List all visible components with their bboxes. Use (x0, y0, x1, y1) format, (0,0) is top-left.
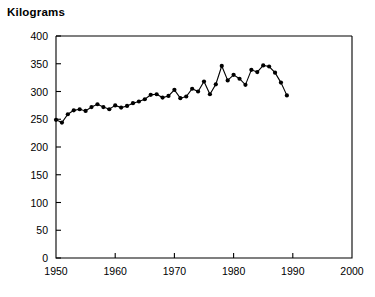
y-tick-label: 100 (8, 198, 48, 209)
y-tick-label: 250 (8, 114, 48, 125)
data-point (119, 105, 123, 109)
chart-container: Kilograms 050100150200250300350400 19501… (0, 0, 375, 297)
data-point (178, 96, 182, 100)
data-point (243, 83, 247, 87)
data-point (107, 107, 111, 111)
data-point (226, 78, 230, 82)
data-point (267, 64, 271, 68)
x-tick-label: 2000 (332, 266, 372, 277)
data-point (261, 63, 265, 67)
data-point (78, 107, 82, 111)
data-point-markers (54, 63, 289, 124)
data-point (113, 103, 117, 107)
data-point (255, 70, 259, 74)
data-point (184, 94, 188, 98)
line-chart-plot (0, 0, 375, 297)
y-tick-label: 200 (8, 142, 48, 153)
data-point (279, 81, 283, 85)
data-point (160, 96, 164, 100)
data-point (125, 104, 129, 108)
data-point (208, 92, 212, 96)
data-point (101, 105, 105, 109)
axis-lines (56, 36, 352, 258)
data-point (66, 112, 70, 116)
data-point (72, 108, 76, 112)
data-point (131, 101, 135, 105)
data-point (60, 120, 64, 124)
x-tick-label: 1980 (214, 266, 254, 277)
data-point (220, 64, 224, 68)
data-point (84, 109, 88, 113)
data-point (89, 105, 93, 109)
y-tick-label: 300 (8, 87, 48, 98)
y-tick-label: 150 (8, 170, 48, 181)
tick-marks (56, 36, 293, 258)
x-tick-label: 1960 (95, 266, 135, 277)
data-point (285, 93, 289, 97)
y-tick-label: 50 (8, 225, 48, 236)
y-tick-label: 0 (8, 253, 48, 264)
data-point (237, 77, 241, 81)
x-tick-label: 1950 (36, 266, 76, 277)
data-point (249, 68, 253, 72)
data-point (172, 88, 176, 92)
data-series-line (56, 65, 287, 122)
data-point (232, 73, 236, 77)
y-tick-label: 350 (8, 59, 48, 70)
data-point (190, 87, 194, 91)
data-point (196, 89, 200, 93)
data-point (143, 97, 147, 101)
data-point (273, 71, 277, 75)
x-tick-label: 1990 (273, 266, 313, 277)
y-tick-label: 400 (8, 31, 48, 42)
data-point (166, 94, 170, 98)
data-point (137, 99, 141, 103)
x-tick-label: 1970 (154, 266, 194, 277)
data-point (155, 92, 159, 96)
data-point (202, 79, 206, 83)
data-point (54, 118, 58, 122)
data-point (95, 102, 99, 106)
data-point (214, 82, 218, 86)
data-point (149, 93, 153, 97)
